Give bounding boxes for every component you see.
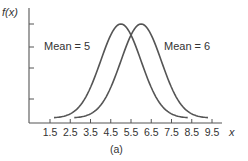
- x-tick-label: 6.5: [144, 126, 159, 138]
- x-axis-label: x: [228, 126, 235, 138]
- y-ticks: [29, 24, 34, 99]
- annotation-mean-6: Mean = 6: [164, 40, 210, 52]
- x-tick-label: 9.5: [205, 126, 220, 138]
- annotation-mean-5: Mean = 5: [44, 40, 90, 52]
- curve-mean-6: [74, 24, 208, 118]
- curves: [54, 24, 208, 118]
- x-tick-label: 5.5: [124, 126, 139, 138]
- x-tick-label: 3.5: [83, 126, 98, 138]
- curve-mean-5: [54, 24, 188, 118]
- chart-caption: (a): [110, 143, 123, 155]
- x-tick-label: 8.5: [184, 126, 199, 138]
- x-tick-label: 4.5: [103, 126, 118, 138]
- x-ticks: 1.52.53.54.55.56.57.58.59.5: [43, 119, 220, 138]
- x-tick-label: 7.5: [164, 126, 179, 138]
- x-tick-label: 1.5: [43, 126, 58, 138]
- x-tick-label: 2.5: [63, 126, 78, 138]
- y-axis-label: f(x): [2, 6, 18, 18]
- chart: f(x) 1.52.53.54.55.56.57.58.59.5 Mean = …: [0, 0, 248, 161]
